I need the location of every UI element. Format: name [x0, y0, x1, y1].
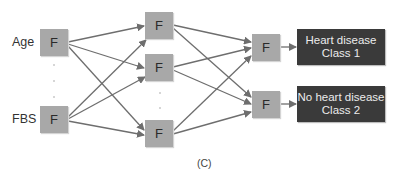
output-2-line2: Class 2 — [322, 104, 360, 117]
hidden2-node-1: F — [252, 34, 280, 61]
ellipsis-dot — [53, 64, 55, 66]
output-2-line1: No heart disease — [298, 91, 385, 104]
output-1-line1: Heart disease — [306, 34, 377, 47]
ellipsis-dot — [159, 107, 161, 109]
ellipsis-dot — [53, 96, 55, 98]
hidden1-node-1: F — [145, 12, 173, 39]
output-1-line2: Class 1 — [322, 47, 360, 60]
output-no-heart-disease: No heart disease Class 2 — [297, 86, 385, 122]
input-node-fbs: F — [40, 106, 68, 133]
input-label-fbs: FBS — [12, 112, 36, 126]
ellipsis-dot — [53, 80, 55, 82]
figure-caption: (C) — [197, 157, 212, 169]
input-label-age: Age — [12, 35, 34, 49]
output-heart-disease: Heart disease Class 1 — [297, 29, 385, 65]
hidden2-node-2: F — [252, 91, 280, 118]
input-node-age: F — [40, 29, 68, 56]
ellipsis-dot — [159, 92, 161, 94]
hidden1-node-3: F — [145, 120, 173, 147]
hidden1-node-2: F — [145, 54, 173, 81]
